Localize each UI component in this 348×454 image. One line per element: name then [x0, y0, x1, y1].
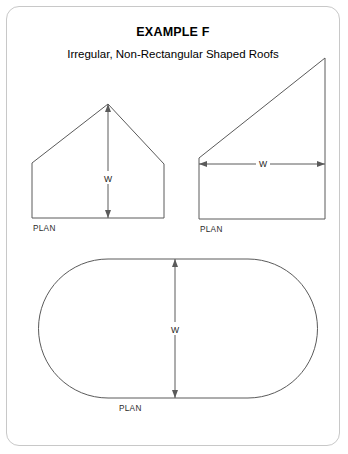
right-trapezoid-dimension: W [199, 157, 325, 170]
stadium-oval-dimension: W [168, 259, 182, 398]
plan-label: PLAN [200, 225, 223, 234]
arrow-head-up-icon [172, 259, 178, 267]
example-figure-card: EXAMPLE F Irregular, Non-Rectangular Sha… [6, 6, 340, 446]
arrow-head-down-icon [105, 210, 111, 218]
figure-stadium-oval: W PLAN [39, 259, 318, 413]
dimension-label-w: W [171, 325, 180, 335]
plan-label: PLAN [33, 224, 56, 233]
house-pentagon-outline [32, 104, 164, 218]
figure-right-trapezoid: W PLAN [199, 58, 325, 234]
right-trapezoid-outline [199, 58, 325, 219]
house-pentagon-dimension: W [101, 104, 115, 218]
plan-label: PLAN [119, 404, 142, 413]
figure-house-pentagon: W PLAN [32, 104, 164, 233]
arrow-head-down-icon [172, 390, 178, 398]
dimension-label-w: W [104, 174, 113, 184]
arrow-head-left-icon [199, 161, 207, 167]
dimension-label-w: W [259, 159, 268, 169]
arrow-head-right-icon [317, 161, 325, 167]
diagram-canvas: W PLAN W PLAN [7, 7, 341, 447]
